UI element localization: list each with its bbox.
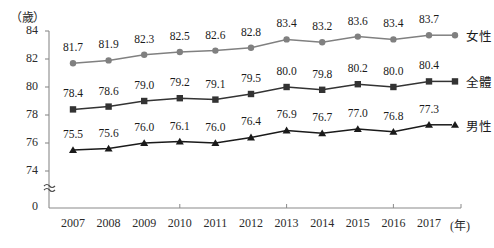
- data-point-label: 79.1: [205, 78, 225, 90]
- legend-label-circle: 女性: [466, 26, 492, 45]
- data-marker-square: [212, 96, 218, 102]
- legend-marker-circle: [452, 32, 458, 38]
- data-point-label: 80.4: [419, 59, 439, 71]
- data-marker-circle: [141, 52, 147, 58]
- data-point-label: 83.4: [277, 17, 297, 29]
- data-point-label: 79.5: [241, 72, 261, 84]
- data-point-label: 77.3: [419, 103, 439, 115]
- data-point-label: 76.4: [241, 115, 261, 127]
- data-marker-square: [177, 95, 183, 101]
- data-point-label: 79.0: [134, 79, 154, 91]
- data-marker-square: [248, 91, 254, 97]
- data-point-label: 78.4: [63, 87, 83, 99]
- data-point-label: 76.7: [312, 111, 332, 123]
- legend-label-triangle: 男性: [466, 116, 492, 135]
- data-marker-circle: [355, 33, 361, 39]
- data-point-label: 76.9: [277, 108, 297, 120]
- data-marker-circle: [105, 57, 111, 63]
- data-point-label: 80.2: [348, 62, 368, 74]
- data-point-label: 75.6: [99, 127, 119, 139]
- life-expectancy-chart: （歲） 8482807876740 2007200820092010201120…: [0, 0, 494, 248]
- data-point-label: 81.7: [63, 41, 83, 53]
- data-marker-square: [319, 87, 325, 93]
- data-point-label: 78.6: [99, 85, 119, 97]
- data-marker-circle: [70, 60, 76, 66]
- data-point-label: 76.1: [170, 120, 190, 132]
- data-point-label: 77.0: [348, 107, 368, 119]
- legend-marker-square: [452, 78, 458, 84]
- data-point-label: 83.2: [312, 20, 332, 32]
- data-point-label: 79.2: [170, 76, 190, 88]
- data-point-label: 82.8: [241, 26, 261, 38]
- data-marker-circle: [248, 45, 254, 51]
- data-marker-square: [283, 84, 289, 90]
- data-point-label: 83.6: [348, 15, 368, 27]
- data-point-label: 75.5: [63, 128, 83, 140]
- data-marker-circle: [177, 49, 183, 55]
- legend-marker-triangle: [451, 121, 459, 128]
- data-point-label: 79.8: [312, 68, 332, 80]
- data-marker-square: [105, 103, 111, 109]
- data-marker-square: [70, 106, 76, 112]
- data-marker-circle: [212, 47, 218, 53]
- data-point-label: 83.4: [383, 17, 403, 29]
- data-point-label: 76.0: [205, 121, 225, 133]
- data-point-label: 80.0: [277, 65, 297, 77]
- data-point-label: 81.9: [99, 38, 119, 50]
- data-point-label: 80.0: [383, 65, 403, 77]
- data-point-label: 82.5: [170, 30, 190, 42]
- data-point-label: 76.8: [383, 110, 403, 122]
- legend-label-square: 全體: [466, 72, 492, 91]
- data-marker-square: [390, 84, 396, 90]
- data-marker-circle: [390, 36, 396, 42]
- data-marker-square: [355, 81, 361, 87]
- data-point-label: 76.0: [134, 121, 154, 133]
- data-point-label: 83.7: [419, 13, 439, 25]
- data-marker-circle: [319, 39, 325, 45]
- data-point-label: 82.6: [205, 29, 225, 41]
- data-marker-square: [141, 98, 147, 104]
- data-point-label: 82.3: [134, 33, 154, 45]
- data-marker-circle: [283, 36, 289, 42]
